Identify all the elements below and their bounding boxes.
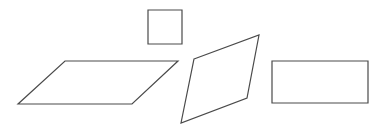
rhombus-shape — [181, 35, 259, 123]
parallelogram-shape — [18, 61, 178, 104]
rectangle-shape — [272, 61, 368, 103]
square-shape — [148, 10, 182, 44]
shapes-diagram — [0, 0, 383, 131]
